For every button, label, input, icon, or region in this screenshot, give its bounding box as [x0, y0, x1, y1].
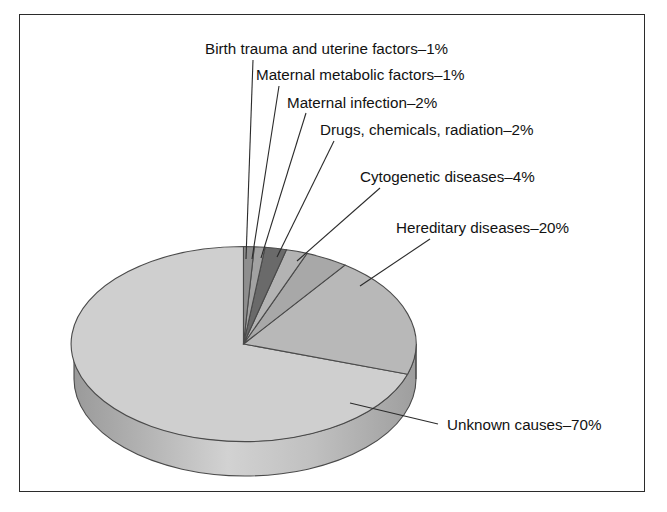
pie-label-hereditary: Hereditary diseases–20% — [396, 219, 569, 236]
pie-slices-top-face — [71, 247, 416, 442]
leader-line-hereditary — [360, 239, 430, 286]
pie-label-drugs: Drugs, chemicals, radiation–2% — [320, 121, 534, 138]
leader-line-cytogenetic — [297, 188, 380, 261]
pie-label-birth-trauma: Birth trauma and uterine factors–1% — [205, 40, 448, 57]
pie-label-maternal-infection: Maternal infection–2% — [287, 94, 437, 111]
leader-line-maternal-metabolic — [252, 86, 279, 259]
leader-line-drugs — [277, 141, 334, 257]
leader-line-birth-trauma — [246, 60, 253, 259]
leader-line-maternal-infection — [261, 113, 306, 258]
pie-label-maternal-metabolic: Maternal metabolic factors–1% — [256, 66, 465, 83]
pie-label-unknown: Unknown causes–70% — [447, 416, 602, 433]
pie-label-cytogenetic: Cytogenetic diseases–4% — [360, 168, 535, 185]
pie-chart-figure: Birth trauma and uterine factors–1% Mate… — [0, 0, 667, 512]
